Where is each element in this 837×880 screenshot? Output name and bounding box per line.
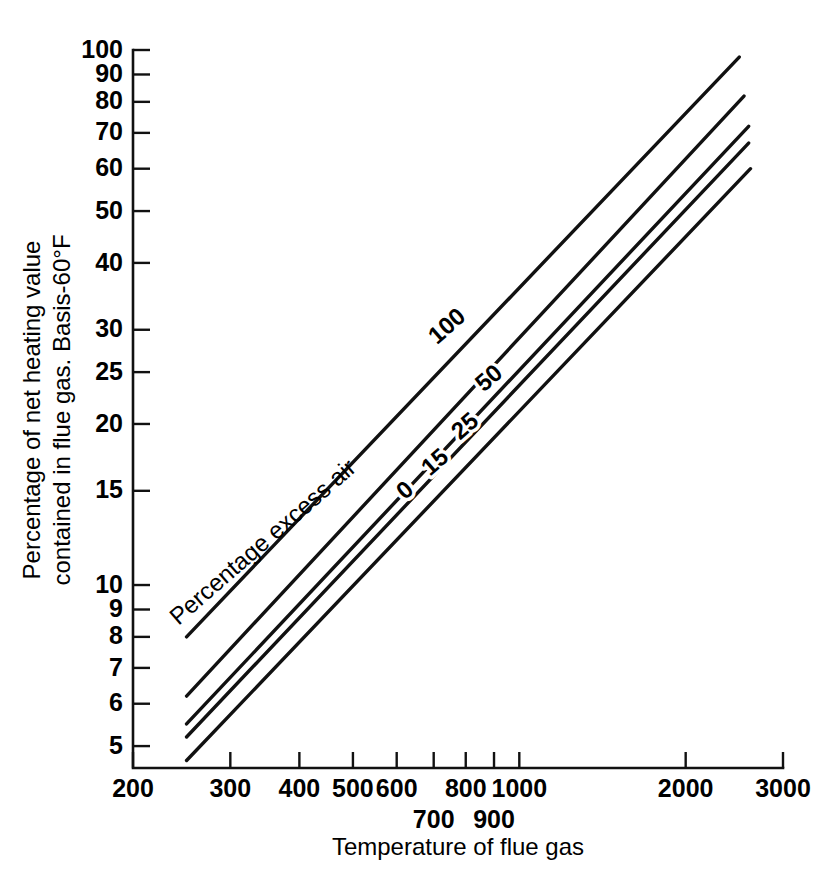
x-tick-label: 600 xyxy=(376,774,418,802)
x-tick-label: 1000 xyxy=(491,774,547,802)
y-tick-label: 15 xyxy=(95,475,123,503)
x-tick-label: 3000 xyxy=(755,774,811,802)
y-tick-label: 20 xyxy=(95,409,123,437)
y-tick-label: 60 xyxy=(95,153,123,181)
x-tick-label-secondary: 900 xyxy=(473,805,515,833)
y-tick-label: 70 xyxy=(95,117,123,145)
y-axis-title-line-1: Percentage of net heating value xyxy=(18,241,45,580)
x-tick-label: 500 xyxy=(332,774,374,802)
x-tick-label: 400 xyxy=(279,774,321,802)
y-tick-label: 9 xyxy=(109,594,123,622)
x-tick-label: 800 xyxy=(445,774,487,802)
y-tick-label: 5 xyxy=(109,731,123,759)
y-tick-label: 80 xyxy=(95,86,123,114)
y-tick-label: 50 xyxy=(95,196,123,224)
y-tick-label: 30 xyxy=(95,314,123,342)
x-tick-label: 200 xyxy=(112,774,154,802)
x-axis-title: Temperature of flue gas xyxy=(332,833,584,860)
x-tick-label: 300 xyxy=(209,774,251,802)
y-axis-title-line-2: contained in flue gas. Basis-60°F xyxy=(48,234,75,585)
y-tick-label: 6 xyxy=(109,688,123,716)
y-tick-label: 90 xyxy=(95,59,123,87)
y-tick-label: 40 xyxy=(95,248,123,276)
y-tick-label: 7 xyxy=(109,653,123,681)
log-log-chart: 100908070605040302520151098765 200300400… xyxy=(0,0,837,880)
y-tick-label: 8 xyxy=(109,621,123,649)
y-tick-label: 25 xyxy=(95,357,123,385)
figure-container: 100908070605040302520151098765 200300400… xyxy=(0,0,837,880)
x-tick-label-secondary: 700 xyxy=(413,805,455,833)
x-tick-label: 2000 xyxy=(658,774,714,802)
